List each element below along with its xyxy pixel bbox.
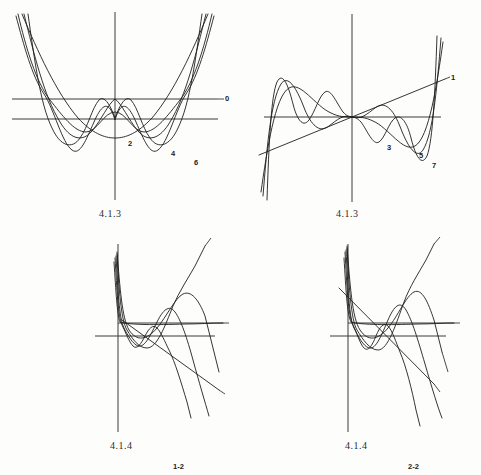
panel-caption-bottom-left: 4.1.4 [110,440,133,451]
panel-bottom-right: 2-0 2-1 2-2 2-3 2-4 4.1.4 [330,232,481,447]
panel-caption-top-right: 4.1.3 [336,208,359,219]
curve-label-1-2: 1-2 [173,462,184,471]
curve-label-6: 6 [194,158,198,167]
curve-label-0: 0 [225,94,229,103]
curve-2-3 [346,250,442,418]
leader-2-1 [434,384,440,392]
curve-label-3: 3 [387,143,391,152]
curve-label-7: 7 [432,161,436,170]
panel-top-left: 0 2 4 6 4.1.3 [0,0,240,215]
leader-1 [445,77,450,79]
plot-bottom-right [330,232,481,447]
curve-1-1-tail [122,320,219,390]
curve-1-0 [114,262,223,325]
curve-1-4 [115,258,191,418]
leader-1-1 [219,390,225,394]
curve-label-4: 4 [171,149,175,158]
panel-caption-top-left: 4.1.3 [99,208,122,219]
curve-2-4 [345,252,420,426]
plot-bottom-left [95,232,245,447]
curve-label-2: 2 [128,139,132,148]
curve-2-2 [347,244,434,350]
figure-page: 0 2 4 6 4.1.3 1 3 5 7 4.1.3 [0,0,481,475]
leader-2-3 [442,352,448,372]
curve-label-1: 1 [451,73,455,82]
panel-top-right: 1 3 5 7 4.1.3 [241,0,481,215]
plot-top-left [0,0,240,215]
plot-top-right [241,0,481,215]
leader-2-2 [434,237,440,244]
curve-label-2-2: 2-2 [408,462,419,471]
curve-1-2 [117,246,205,348]
leader-1-2 [205,238,211,246]
panel-caption-bottom-right: 4.1.4 [345,440,368,451]
panel-bottom-left: 1-0 1-1 1-2 1-3 1-4 4.1.4 [95,232,245,447]
curve-label-5: 5 [419,151,423,160]
curve-1-1 [117,252,219,372]
